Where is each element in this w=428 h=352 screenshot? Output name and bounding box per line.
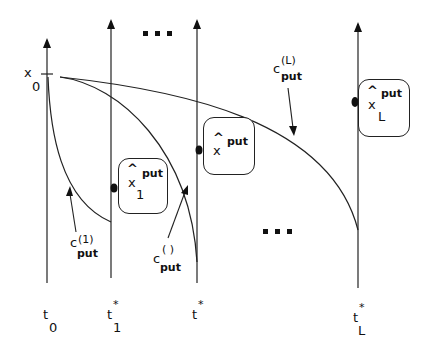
t1-label-sup: * xyxy=(113,299,119,310)
arrow-up-icon xyxy=(107,19,115,29)
cL-label-main: c xyxy=(273,62,280,75)
tmid-label-sup: * xyxy=(198,299,204,310)
arrow-up-icon xyxy=(354,22,362,32)
boxmid-sup: put xyxy=(227,136,248,147)
arrow-head-icon xyxy=(66,186,73,196)
hat-symbol: ^ xyxy=(127,162,138,175)
arrow-head-icon xyxy=(289,126,297,136)
time-axis-t0 xyxy=(43,38,51,283)
boxL-main: x xyxy=(368,98,376,111)
arrow-up-icon xyxy=(193,19,201,29)
pointer-cmid xyxy=(168,192,185,238)
c1-label-sup: (1) xyxy=(78,234,94,245)
time-axis-tL xyxy=(354,22,362,288)
tmid-label-main: t xyxy=(192,308,197,321)
boxL-sub: L xyxy=(378,110,385,123)
cmid-label-sup: ( ) xyxy=(162,244,174,255)
box1-sup: put xyxy=(142,168,163,179)
tL-label-sub: L xyxy=(358,324,365,337)
cmid-label-sub: put xyxy=(160,262,181,273)
t1-label-sub: 1 xyxy=(113,321,121,334)
box1-sub: 1 xyxy=(136,188,144,201)
t0-label-sub: 0 xyxy=(49,321,57,334)
tL-label-sup: * xyxy=(359,302,365,313)
x0-label-sub: 0 xyxy=(32,80,40,93)
boxmid-main: x xyxy=(213,144,221,157)
x0-label-main: x xyxy=(24,66,32,79)
curve-c1 xyxy=(48,77,111,222)
c1-label-sub: put xyxy=(77,248,98,259)
diagram-canvas xyxy=(0,0,428,352)
box1-main: x xyxy=(128,176,136,189)
ellipsis-bottom xyxy=(263,229,292,234)
cL-label-sup: (L) xyxy=(281,55,296,66)
cL-label-sub: put xyxy=(281,71,302,82)
ellipsis-top xyxy=(143,31,172,36)
time-axis-t1 xyxy=(107,19,115,278)
boxL-sup: put xyxy=(381,88,402,99)
pointer-c1 xyxy=(70,194,76,232)
boundary-point-mid xyxy=(196,146,203,155)
arrow-up-icon xyxy=(43,38,51,48)
boundary-point-1 xyxy=(111,184,118,193)
t1-label-main: t xyxy=(107,308,112,321)
t0-label-main: t xyxy=(43,308,48,321)
pointer-cL xyxy=(288,88,293,128)
hat-symbol: ^ xyxy=(367,84,378,97)
